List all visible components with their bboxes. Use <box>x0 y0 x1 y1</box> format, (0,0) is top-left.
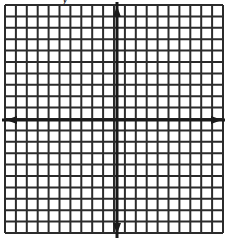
arrow-left-icon <box>6 116 17 124</box>
grid-svg <box>0 0 227 240</box>
arrow-right-icon <box>211 116 222 124</box>
